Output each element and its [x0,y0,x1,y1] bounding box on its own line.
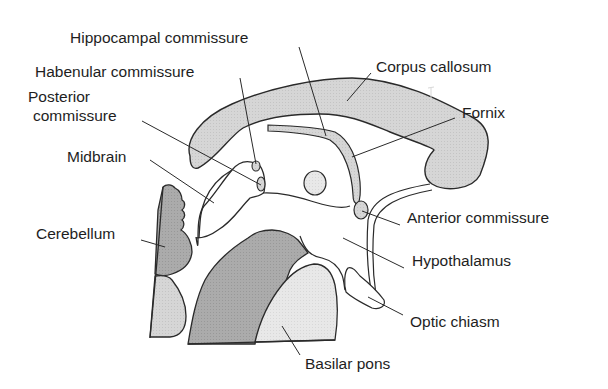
lamina-terminalis [367,184,430,295]
label-hippocampal-commissure: Hippocampal commissure [70,30,248,46]
label-corpus-callosum: Corpus callosum [376,59,491,75]
midbrain-outline [196,162,259,246]
label-basilar-pons: Basilar pons [305,356,390,372]
label-optic-chiasm: Optic chiasm [410,314,500,330]
label-fornix: Fornix [462,105,505,121]
label-posterior-commissure-line1: Posterior [28,89,90,105]
cerebellum-shape [155,185,192,276]
brain-sagittal-diagram [0,0,608,389]
label-hypothalamus: Hypothalamus [412,253,511,269]
label-anterior-commissure: Anterior commissure [407,210,549,226]
anterior-commissure-shape [354,201,368,219]
label-habenular-commissure: Habenular commissure [35,64,194,80]
label-midbrain: Midbrain [67,149,126,165]
thalamus-outline [263,193,350,208]
corpus-callosum-shape [189,78,488,189]
label-cerebellum: Cerebellum [36,226,115,242]
massa-intermedia [304,171,326,195]
label-posterior-commissure-line2: commissure [33,108,117,124]
